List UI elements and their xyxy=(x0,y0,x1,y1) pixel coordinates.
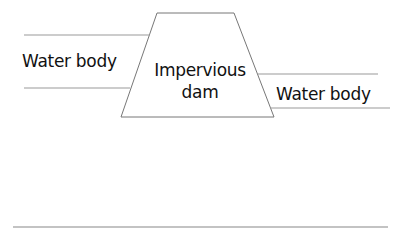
dam-label-line2: dam xyxy=(140,82,260,102)
dam-label-line1: Impervious xyxy=(140,60,260,80)
right-water-label: Water body xyxy=(276,84,371,104)
dam-label: Impervious dam xyxy=(140,60,260,102)
dam-diagram xyxy=(0,0,408,236)
left-water-label: Water body xyxy=(22,51,117,71)
